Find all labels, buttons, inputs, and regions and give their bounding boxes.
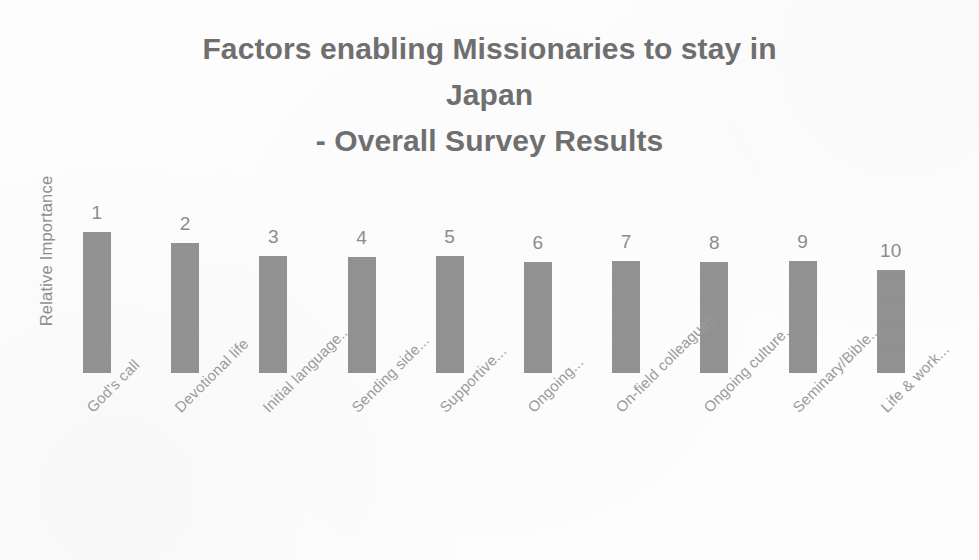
bar-value-label: 9 [773,231,833,253]
bar [348,257,376,373]
bar [877,270,905,373]
bar-value-label: 8 [684,232,744,254]
bar [612,261,640,373]
bar-chart-plot-area: Relative Importance 12345678910 God's ca… [0,0,979,560]
bar-value-label: 2 [155,213,215,235]
bar [83,232,111,373]
bar-value-label: 7 [596,231,656,253]
bar-value-label: 6 [508,232,568,254]
bar-value-label: 10 [861,240,921,262]
bar [259,256,287,373]
bar-value-label: 4 [332,227,392,249]
bar-value-label: 1 [67,202,127,224]
y-axis-title: Relative Importance [37,166,63,336]
bar [436,256,464,373]
bar [789,261,817,373]
bar [171,243,199,373]
bar-value-label: 3 [243,226,303,248]
bar-value-label: 5 [420,226,480,248]
bar [524,262,552,373]
